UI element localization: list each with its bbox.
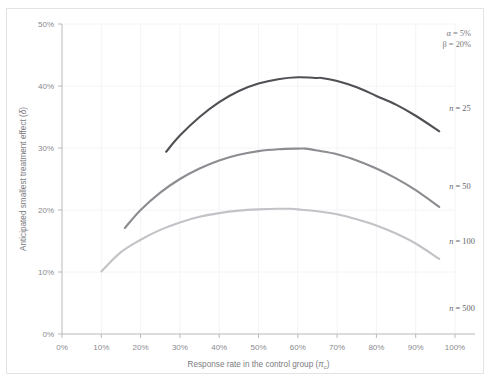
y-tick-label: 30% [38,144,54,153]
beta-annotation: β = 20% [442,40,471,49]
x-tick-label: 10% [93,343,109,352]
x-tick-label: 50% [250,343,266,352]
x-tick-label: 70% [329,343,345,352]
series-label: n = 500 [449,304,475,313]
x-tick-label: 90% [408,343,424,352]
series-line-n-100 [101,209,439,272]
tick-labels: 0%10%20%30%40%50%0%10%20%30%40%50%60%70%… [38,20,465,352]
y-tick-label: 40% [38,82,54,91]
x-tick-label: 60% [290,343,306,352]
series-line-n-50 [125,148,439,228]
y-tick-label: 20% [38,206,54,215]
x-tick-label: 30% [172,343,188,352]
x-axis-title: Response rate in the control group (πc) [188,360,330,370]
alpha-annotation: α = 5% [447,29,471,38]
y-tick-label: 50% [38,20,54,29]
series-label: n = 25 [449,104,470,113]
plot-area: 0%10%20%30%40%50%0%10%20%30%40%50%60%70%… [0,0,491,382]
series-lines [101,77,439,271]
line-chart-svg: 0%10%20%30%40%50%0%10%20%30%40%50%60%70%… [0,0,491,382]
axis-titles: Response rate in the control group (πc)A… [19,107,330,370]
x-tick-label: 20% [133,343,149,352]
y-tick-label: 10% [38,268,54,277]
y-axis-title: Anticipated smallest treatment effect (δ… [19,107,28,251]
series-line-n-25 [166,77,439,151]
x-tick-label: 100% [445,343,465,352]
y-tick-label: 0% [42,330,54,339]
chart-page: 0%10%20%30%40%50%0%10%20%30%40%50%60%70%… [0,0,491,382]
series-labels: n = 25n = 50n = 100n = 500 [449,104,475,313]
axes [58,24,475,338]
x-tick-label: 0% [56,343,68,352]
x-tick-label: 40% [211,343,227,352]
series-label: n = 50 [449,182,470,191]
x-tick-label: 80% [368,343,384,352]
parameter-annotations: α = 5%β = 20% [442,29,471,49]
series-label: n = 100 [449,237,475,246]
